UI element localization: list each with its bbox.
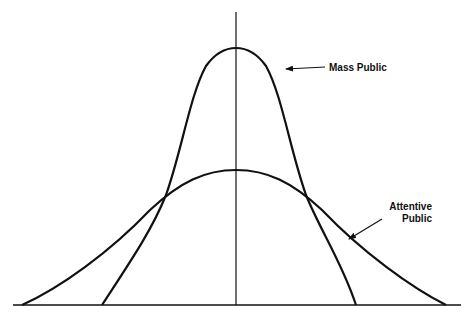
mass-public-curve: [102, 48, 356, 305]
distribution-diagram: [0, 0, 473, 323]
attentive-public-label-line2: Public: [384, 213, 432, 225]
attentive-public-label-line1: Attentive: [384, 201, 432, 213]
mass-public-label: Mass Public: [329, 62, 387, 74]
mass-public-arrow: [286, 67, 325, 69]
attentive-public-arrow: [349, 219, 382, 239]
attentive-public-label: Attentive Public: [384, 201, 432, 225]
attentive-public-curve: [22, 170, 446, 305]
